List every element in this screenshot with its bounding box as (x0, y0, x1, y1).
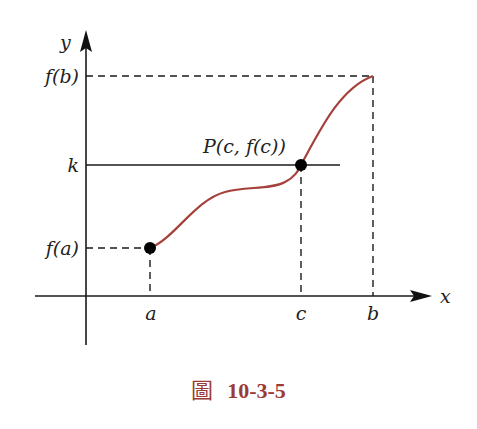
caption-prefix: 圖 (191, 378, 213, 403)
x-tick-a: a (145, 302, 156, 324)
x-axis-label: x (440, 285, 451, 307)
point-p (295, 159, 307, 171)
y-tick-k: k (67, 154, 79, 176)
guide-lines (86, 76, 373, 296)
point-p-label: P(c, f(c)) (202, 135, 286, 157)
caption-number: 10-3-5 (227, 378, 286, 403)
point-a (144, 242, 156, 254)
ivt-diagram: y x f(b) k f(a) a c b P(c, f(c)) (0, 0, 477, 370)
y-tick-fa: f(a) (44, 237, 79, 259)
y-axis-label: y (59, 31, 71, 53)
function-curve (150, 76, 373, 248)
x-tick-c: c (296, 302, 307, 324)
y-tick-fb: f(b) (43, 65, 79, 87)
figure-caption: 圖10-3-5 (0, 372, 477, 404)
x-tick-b: b (367, 302, 379, 324)
